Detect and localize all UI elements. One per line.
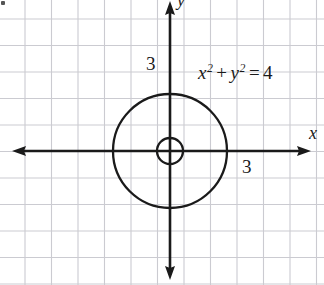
coordinate-plane — [0, 0, 324, 285]
y-axis-tick-label-3: 3 — [146, 54, 156, 73]
x-axis-left-arrowhead — [12, 146, 26, 156]
x-axis-tick-label-3: 3 — [242, 157, 252, 176]
equation-term2-exponent: 2 — [239, 62, 245, 75]
graph-figure: 3 3 x y x2+y2=4 — [0, 0, 324, 285]
equation-plus-operator: + — [213, 62, 230, 83]
x-axis-right-arrowhead — [297, 146, 311, 156]
equation-term1-variable: x — [198, 62, 207, 83]
y-axis-bottom-arrowhead — [165, 266, 175, 280]
grid-lines — [0, 0, 324, 285]
equation-equals-operator: = — [246, 62, 263, 83]
x-axis — [12, 146, 311, 156]
y-axis — [165, 1, 175, 280]
y-axis-name-label: y — [177, 0, 185, 9]
x-axis-name-label: x — [309, 124, 317, 142]
equation-right-hand-side: 4 — [263, 62, 273, 83]
equation-annotation: x2+y2=4 — [198, 63, 273, 82]
y-axis-top-arrowhead — [165, 1, 175, 15]
